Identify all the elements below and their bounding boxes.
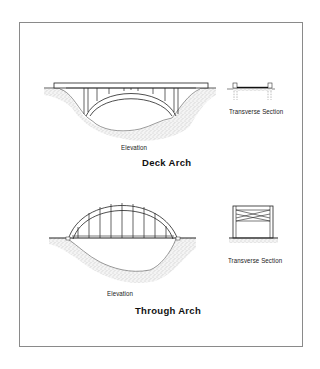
- deck-arch-elevation-label: Elevation: [121, 143, 147, 152]
- through-arch-transverse-section: [229, 206, 278, 243]
- deck-arch-title: Deck Arch: [142, 157, 191, 168]
- through-arch-elevation: [49, 203, 196, 283]
- deck-arch-transverse-section: [227, 83, 275, 100]
- through-arch-section-label: Transverse Section: [228, 256, 282, 265]
- through-arch-elevation-label: Elevation: [107, 289, 133, 298]
- deck-arch-elevation: [44, 83, 216, 141]
- through-arch-title: Through Arch: [135, 305, 201, 316]
- deck-arch-section-label: Transverse Section: [229, 107, 283, 116]
